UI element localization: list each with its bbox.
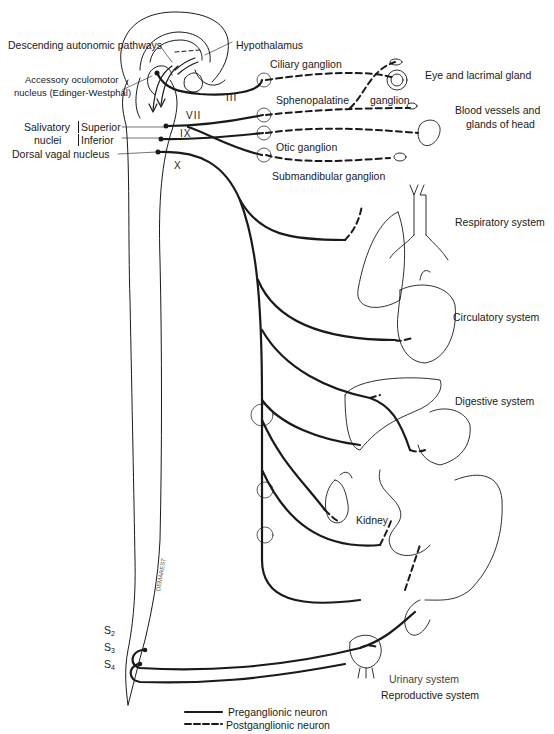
label-superior: Superior <box>78 121 121 133</box>
label-edinger-westphal-1: Accessory oculomotor <box>25 74 118 86</box>
s4-number: 4 <box>111 664 115 671</box>
label-otic-ganglion: Otic ganglion <box>276 141 337 153</box>
label-edinger-westphal-2: nucleus (Edinger-Westphal) <box>14 87 131 99</box>
label-reproductive: Reproductive system <box>381 689 479 701</box>
label-blood-vessels-1: Blood vessels and <box>455 104 540 116</box>
label-s3: S3 <box>104 641 115 657</box>
label-hypothalamus: Hypothalamus <box>236 39 303 51</box>
s3-number: 3 <box>111 647 115 654</box>
s2-number: 2 <box>111 630 115 637</box>
brain-outline <box>121 12 229 118</box>
label-respiratory: Respiratory system <box>455 216 545 228</box>
label-circulatory: Circulatory system <box>453 311 539 323</box>
label-kidney: Kidney <box>356 514 388 526</box>
legend-postganglionic: Postganglionic neuron <box>226 719 330 731</box>
label-nerve-vii: VII <box>186 110 201 122</box>
label-dorsal-vagal: Dorsal vagal nucleus <box>12 148 109 160</box>
legend-preganglionic: Preganglionic neuron <box>228 706 327 718</box>
label-salivatory-1: Salivatory <box>24 121 70 133</box>
label-nerve-iii: III <box>226 92 237 104</box>
label-digestive: Digestive system <box>455 395 534 407</box>
s2-letter: S <box>104 624 111 636</box>
label-urinary: Urinary system <box>389 673 459 685</box>
label-nerve-ix: IX <box>180 128 191 140</box>
label-s2: S2 <box>104 624 115 640</box>
spinal-cord <box>123 80 178 705</box>
label-eye-lacrimal: Eye and lacrimal gland <box>425 69 531 81</box>
label-submandibular-ganglion: Submandibular ganglion <box>272 170 385 182</box>
descending-pathway-arrows <box>149 58 198 112</box>
label-salivatory-2: nuclei <box>34 134 61 146</box>
s3-letter: S <box>104 641 111 653</box>
s4-letter: S <box>104 658 111 670</box>
label-inferior: Inferior <box>78 134 114 146</box>
label-s4: S4 <box>104 658 115 674</box>
label-sphenopalatine: Sphenopalatine <box>276 94 349 106</box>
organ-drawings <box>325 59 502 678</box>
label-ganglion: ganglion <box>370 94 410 106</box>
label-nerve-x: X <box>174 160 182 172</box>
label-ciliary-ganglion: Ciliary ganglion <box>270 58 342 70</box>
label-blood-vessels-2: glands of head <box>466 118 535 130</box>
label-descending-pathways: Descending autonomic pathways <box>8 39 162 51</box>
